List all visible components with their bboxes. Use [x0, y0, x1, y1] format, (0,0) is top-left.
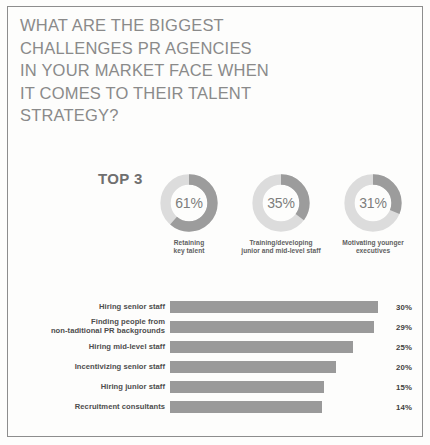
title-line-4: IT COMES TO THEIR TALENT: [20, 82, 320, 105]
bar-track: [170, 301, 378, 313]
bar-track: [170, 401, 378, 413]
donut-chart-2: 35%: [250, 172, 312, 234]
donut-caption-1: Retaining key talent: [174, 239, 205, 256]
bar-fill: [170, 381, 324, 393]
bar-fill: [170, 321, 374, 333]
donut-chart-1: 61%: [158, 172, 220, 234]
bar-label: Recruitment consultants: [20, 403, 170, 412]
donut-chart-group: 61% Retaining key talent 35% Training/de…: [146, 172, 416, 256]
bar-value: 14%: [378, 403, 412, 412]
bar-fill: [170, 401, 322, 413]
bar-row: Incentivizing senior staff 20%: [20, 360, 412, 374]
bar-track: [170, 341, 378, 353]
donut-value-2: 35%: [250, 172, 312, 234]
donut-item-motivating-younger: 31% Motivating younger executives: [330, 172, 416, 256]
donut-caption-2-line-2: junior and mid-level staff: [241, 247, 320, 255]
page-title: WHAT ARE THE BIGGEST CHALLENGES PR AGENC…: [20, 14, 320, 127]
bar-track: [170, 381, 378, 393]
donut-caption-1-line-2: key talent: [174, 247, 205, 255]
bar-row: Recruitment consultants 14%: [20, 400, 412, 414]
bar-row: Hiring mid-level staff 25%: [20, 340, 412, 354]
bar-label: Incentivizing senior staff: [20, 363, 170, 372]
bar-label: Hiring senior staff: [20, 303, 170, 312]
top3-label: TOP 3: [98, 170, 143, 187]
title-line-3: IN YOUR MARKET FACE WHEN: [20, 59, 320, 82]
title-line-2: CHALLENGES PR AGENCIES: [20, 37, 320, 60]
donut-caption-1-line-1: Retaining: [174, 239, 205, 247]
bar-chart: Hiring senior staff 30% Finding people f…: [20, 300, 412, 420]
bar-value: 15%: [378, 383, 412, 392]
title-line-1: WHAT ARE THE BIGGEST: [20, 14, 320, 37]
donut-value-3: 31%: [342, 172, 404, 234]
bar-label-line: Hiring mid-level staff: [20, 343, 165, 352]
donut-caption-3-line-2: executives: [342, 247, 404, 255]
bar-label: Hiring junior staff: [20, 383, 170, 392]
bar-fill: [170, 341, 353, 353]
infographic-card: WHAT ARE THE BIGGEST CHALLENGES PR AGENC…: [0, 0, 430, 445]
donut-item-training-developing: 35% Training/developing junior and mid-l…: [238, 172, 324, 256]
bar-track: [170, 321, 378, 333]
donut-item-retaining-key-talent: 61% Retaining key talent: [146, 172, 232, 256]
bar-row: Hiring junior staff 15%: [20, 380, 412, 394]
bar-row: Hiring senior staff 30%: [20, 300, 412, 314]
bar-fill: [170, 361, 336, 373]
bar-label-line: non-taditional PR backgrounds: [20, 327, 165, 336]
bar-label: Finding people from non-taditional PR ba…: [20, 318, 170, 335]
donut-caption-3-line-1: Motivating younger: [342, 239, 404, 247]
bar-track: [170, 361, 378, 373]
bar-label-line: Incentivizing senior staff: [20, 363, 165, 372]
bar-label-line: Hiring junior staff: [20, 383, 165, 392]
bar-value: 25%: [378, 343, 412, 352]
bar-fill: [170, 301, 378, 313]
donut-caption-3: Motivating younger executives: [342, 239, 404, 256]
bar-label-line: Recruitment consultants: [20, 403, 165, 412]
bar-value: 20%: [378, 363, 412, 372]
donut-caption-2: Training/developing junior and mid-level…: [241, 239, 320, 256]
bar-value: 30%: [378, 303, 412, 312]
title-line-5: STRATEGY?: [20, 104, 320, 127]
donut-value-1: 61%: [158, 172, 220, 234]
bar-value: 29%: [378, 323, 412, 332]
bar-label: Hiring mid-level staff: [20, 343, 170, 352]
bar-label-line: Hiring senior staff: [20, 303, 165, 312]
bar-row: Finding people from non-taditional PR ba…: [20, 320, 412, 334]
donut-chart-3: 31%: [342, 172, 404, 234]
donut-caption-2-line-1: Training/developing: [241, 239, 320, 247]
